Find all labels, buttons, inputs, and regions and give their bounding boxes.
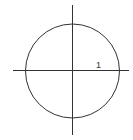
- radius-label: 1: [96, 60, 101, 70]
- unit-circle-diagram: 1: [0, 0, 133, 140]
